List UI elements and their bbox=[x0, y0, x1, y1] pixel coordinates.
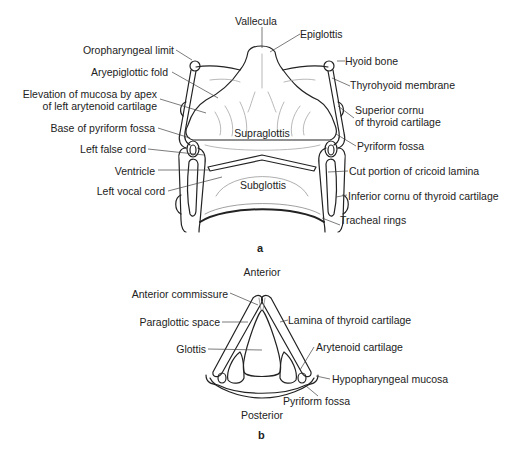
label-supraglottis: Supraglottis bbox=[230, 127, 294, 139]
panel-letter-a: a bbox=[257, 242, 263, 254]
label-left-vocal-cord: Left vocal cord bbox=[0, 185, 165, 197]
label-elevation-mucosa-line2: of left arytenoid cartilage bbox=[0, 100, 157, 112]
label-elevation-mucosa-line1: Elevation of mucosa by apex bbox=[0, 88, 157, 100]
label-anterior: Anterior bbox=[237, 266, 287, 278]
label-oropharyngeal-limit: Oropharyngeal limit bbox=[0, 44, 174, 56]
label-anterior-commissure: Anterior commissure bbox=[100, 288, 228, 300]
label-tracheal-rings: Tracheal rings bbox=[340, 214, 406, 226]
label-posterior: Posterior bbox=[234, 409, 290, 421]
label-lamina-thyroid-cartilage: Lamina of thyroid cartilage bbox=[288, 314, 411, 326]
label-glottis: Glottis bbox=[150, 343, 206, 355]
label-paraglottic-space: Paraglottic space bbox=[100, 316, 220, 328]
label-left-false-cord: Left false cord bbox=[0, 143, 146, 155]
label-cut-cricoid-lamina: Cut portion of cricoid lamina bbox=[349, 165, 479, 177]
label-vallecula: Vallecula bbox=[235, 15, 277, 27]
panel-b-drawing bbox=[206, 295, 318, 398]
label-thyrohyoid-membrane: Thyrohyoid membrane bbox=[350, 79, 455, 91]
panel-letter-b: b bbox=[258, 429, 265, 441]
label-subglottis: Subglottis bbox=[235, 179, 291, 191]
label-base-pyriform-fossa: Base of pyriform fossa bbox=[0, 122, 155, 134]
label-ventricle: Ventricle bbox=[0, 165, 155, 177]
label-inferior-cornu: Inferior cornu of thyroid cartilage bbox=[348, 190, 499, 202]
label-arytenoid-cartilage: Arytenoid cartilage bbox=[316, 341, 403, 353]
label-pyriform-fossa-b: Pyriform fossa bbox=[283, 395, 350, 407]
label-hypopharyngeal-mucosa: Hypopharyngeal mucosa bbox=[332, 373, 448, 385]
label-pyriform-fossa-a: Pyriform fossa bbox=[357, 140, 424, 152]
label-superior-cornu-line2: of thyroid cartilage bbox=[355, 116, 441, 128]
label-hyoid-bone: Hyoid bone bbox=[345, 55, 398, 67]
label-superior-cornu-line1: Superior cornu bbox=[355, 104, 424, 116]
label-epiglottis: Epiglottis bbox=[300, 28, 343, 40]
label-aryepiglottic-fold: Aryepiglottic fold bbox=[0, 66, 168, 78]
